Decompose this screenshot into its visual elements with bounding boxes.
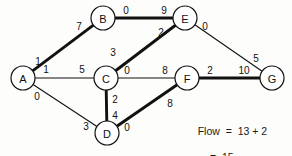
- node-f[interactable]: F: [175, 66, 199, 90]
- node-a[interactable]: A: [11, 66, 35, 90]
- edge-label-f-g-head: 10: [238, 65, 250, 76]
- edge-label-e-g-tail: 0: [202, 21, 208, 32]
- node-label-e: E: [181, 13, 188, 25]
- edge-label-c-d-tail: 2: [112, 94, 118, 105]
- node-label-f: F: [184, 73, 191, 85]
- node-g[interactable]: G: [260, 66, 284, 90]
- network-flow-diagram: ABCDEFG 171503093208240805210 Flow = 13 …: [0, 0, 292, 156]
- edge-label-b-e-head: 9: [161, 5, 167, 16]
- edge-label-a-c-tail: 1: [43, 64, 49, 75]
- edge-label-c-f-head: 8: [162, 65, 168, 76]
- node-label-c: C: [102, 73, 110, 85]
- edge-label-b-e-tail: 0: [123, 5, 129, 16]
- edge-label-c-e-tail: 3: [110, 47, 116, 58]
- node-label-a: A: [19, 73, 27, 85]
- edge-label-a-b-head: 7: [76, 21, 82, 32]
- node-label-g: G: [268, 73, 277, 85]
- edge-c-d: [106, 90, 107, 121]
- node-b[interactable]: B: [91, 6, 115, 30]
- edge-label-a-d-head: 3: [83, 121, 89, 132]
- node-label-b: B: [99, 13, 106, 25]
- flow-annotation: Flow = 13 + 2 = 15: [186, 112, 267, 156]
- node-d[interactable]: D: [95, 121, 119, 145]
- edge-label-d-f-head: 8: [167, 98, 173, 109]
- edge-e-g: [195, 25, 262, 71]
- flow-annotation-line-1: Flow = 13 + 2: [198, 125, 267, 137]
- edge-label-d-f-tail: 0: [124, 122, 130, 133]
- node-e[interactable]: E: [173, 6, 197, 30]
- node-c[interactable]: C: [94, 66, 118, 90]
- edges-layer: [33, 18, 263, 126]
- edge-label-c-e-head: 2: [158, 27, 164, 38]
- edge-label-e-g-head: 5: [253, 53, 259, 64]
- flow-annotation-line-2: = 15: [186, 151, 267, 156]
- edge-label-a-c-head: 5: [79, 64, 85, 75]
- edge-label-c-d-head: 4: [112, 110, 118, 121]
- edge-label-a-b-tail: 1: [35, 56, 41, 67]
- edge-label-a-d-tail: 0: [34, 91, 40, 102]
- edge-label-f-g-tail: 2: [207, 65, 213, 76]
- edge-label-c-f-tail: 0: [124, 65, 130, 76]
- node-label-d: D: [103, 128, 111, 140]
